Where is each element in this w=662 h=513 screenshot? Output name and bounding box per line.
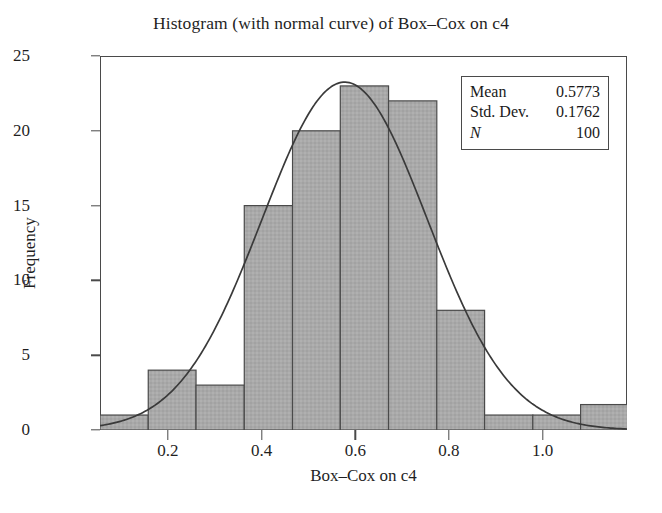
histogram-bar bbox=[293, 131, 341, 430]
y-tick-mark bbox=[91, 130, 100, 131]
x-tick-label: 0.6 bbox=[345, 441, 366, 461]
x-tick-label: 1.0 bbox=[532, 441, 553, 461]
y-tick-label: 5 bbox=[22, 345, 31, 365]
histogram-bar bbox=[389, 101, 437, 430]
stats-label: Std. Dev. bbox=[470, 102, 537, 122]
y-tick-label: 25 bbox=[13, 46, 30, 66]
x-tick-label: 0.4 bbox=[251, 441, 272, 461]
y-tick-mark bbox=[91, 354, 100, 355]
stats-legend-box: Mean0.5773Std. Dev.0.1762N100 bbox=[461, 76, 609, 150]
stats-row: Std. Dev.0.1762 bbox=[470, 102, 600, 122]
x-tick-mark bbox=[542, 430, 543, 440]
y-tick-label: 0 bbox=[22, 420, 31, 440]
histogram-bar bbox=[340, 86, 388, 430]
histogram-bar bbox=[196, 385, 244, 430]
x-tick-mark bbox=[355, 430, 356, 440]
stats-label: Mean bbox=[470, 82, 514, 102]
stats-value: 100 bbox=[576, 123, 600, 143]
y-axis: 0510152025 bbox=[0, 0, 100, 513]
stats-label: N bbox=[470, 123, 489, 143]
x-tick-mark bbox=[448, 430, 449, 440]
y-tick-mark bbox=[91, 55, 100, 56]
histogram-bar bbox=[437, 310, 485, 430]
stats-value: 0.1762 bbox=[556, 102, 600, 122]
histogram-bar bbox=[244, 206, 292, 430]
histogram-bar bbox=[100, 415, 148, 430]
y-tick-mark bbox=[91, 429, 100, 430]
histogram-figure: Histogram (with normal curve) of Box–Cox… bbox=[0, 0, 662, 513]
x-axis-title: Box–Cox on c4 bbox=[100, 466, 627, 486]
y-tick-label: 20 bbox=[13, 121, 30, 141]
x-tick-label: 0.8 bbox=[438, 441, 459, 461]
x-tick-label: 0.2 bbox=[157, 441, 178, 461]
y-tick-mark bbox=[91, 205, 100, 206]
histogram-bar bbox=[485, 415, 533, 430]
stats-row: N100 bbox=[470, 123, 600, 143]
stats-value: 0.5773 bbox=[556, 82, 600, 102]
stats-row: Mean0.5773 bbox=[470, 82, 600, 102]
histogram-bar bbox=[148, 370, 196, 430]
x-tick-mark bbox=[167, 430, 168, 440]
y-axis-title: Frequency bbox=[20, 163, 40, 343]
x-tick-mark bbox=[261, 430, 262, 440]
y-tick-mark bbox=[91, 280, 100, 281]
